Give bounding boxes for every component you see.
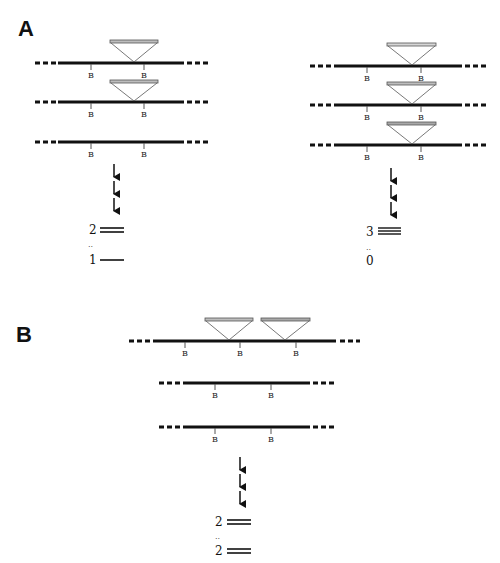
count-label: 2	[215, 544, 223, 558]
site-label: B	[364, 153, 370, 162]
panel-a-left: B B B B B B 2 .. 1	[35, 40, 208, 267]
dna-row	[35, 40, 208, 70]
dna-row	[310, 122, 486, 152]
insertion-triangle	[387, 82, 436, 104]
site-label: B	[268, 391, 274, 400]
diagram-canvas: B B B B B B 2 .. 1	[0, 0, 500, 563]
panel-a-right: B B B B B B 3 .. 0	[310, 43, 486, 268]
count-label: 2	[89, 223, 97, 237]
site-label: B	[88, 71, 94, 80]
site-label: B	[364, 74, 370, 83]
site-label: B	[293, 349, 299, 358]
site-label: B	[182, 349, 188, 358]
band-double	[227, 520, 251, 524]
insertion-triangle	[387, 122, 436, 144]
site-label: B	[418, 153, 424, 162]
site-label: B	[88, 150, 94, 159]
insertion-triangle	[261, 318, 310, 340]
insertion-triangle	[110, 80, 158, 101]
count-label: 3	[366, 225, 374, 239]
dna-row	[129, 318, 360, 348]
site-label: B	[364, 113, 370, 122]
panel-b: B B B B B B B 2 .. 2	[129, 318, 360, 558]
separator: ..	[215, 532, 220, 541]
insertion-triangle	[387, 43, 436, 65]
insertion-triangle	[205, 318, 253, 340]
band-triple	[378, 228, 401, 234]
site-label: B	[141, 71, 147, 80]
count-label: 1	[89, 253, 97, 267]
band-double	[227, 549, 251, 553]
dna-row	[159, 427, 335, 434]
site-label: B	[141, 150, 147, 159]
site-label: B	[418, 113, 424, 122]
dna-row	[310, 43, 486, 73]
insertion-triangle	[110, 40, 158, 62]
dna-row	[159, 383, 335, 390]
band-double	[100, 228, 124, 232]
dna-row	[310, 82, 486, 112]
count-label: 0	[366, 254, 374, 268]
site-label: B	[88, 110, 94, 119]
site-label: B	[418, 74, 424, 83]
count-label: 2	[215, 515, 223, 529]
site-label: B	[212, 435, 218, 444]
site-label: B	[268, 435, 274, 444]
separator: ..	[88, 240, 93, 249]
dna-row	[35, 142, 208, 149]
site-label: B	[212, 391, 218, 400]
separator: ..	[366, 243, 371, 252]
site-label: B	[237, 349, 243, 358]
dna-row	[35, 80, 208, 109]
site-label: B	[141, 110, 147, 119]
